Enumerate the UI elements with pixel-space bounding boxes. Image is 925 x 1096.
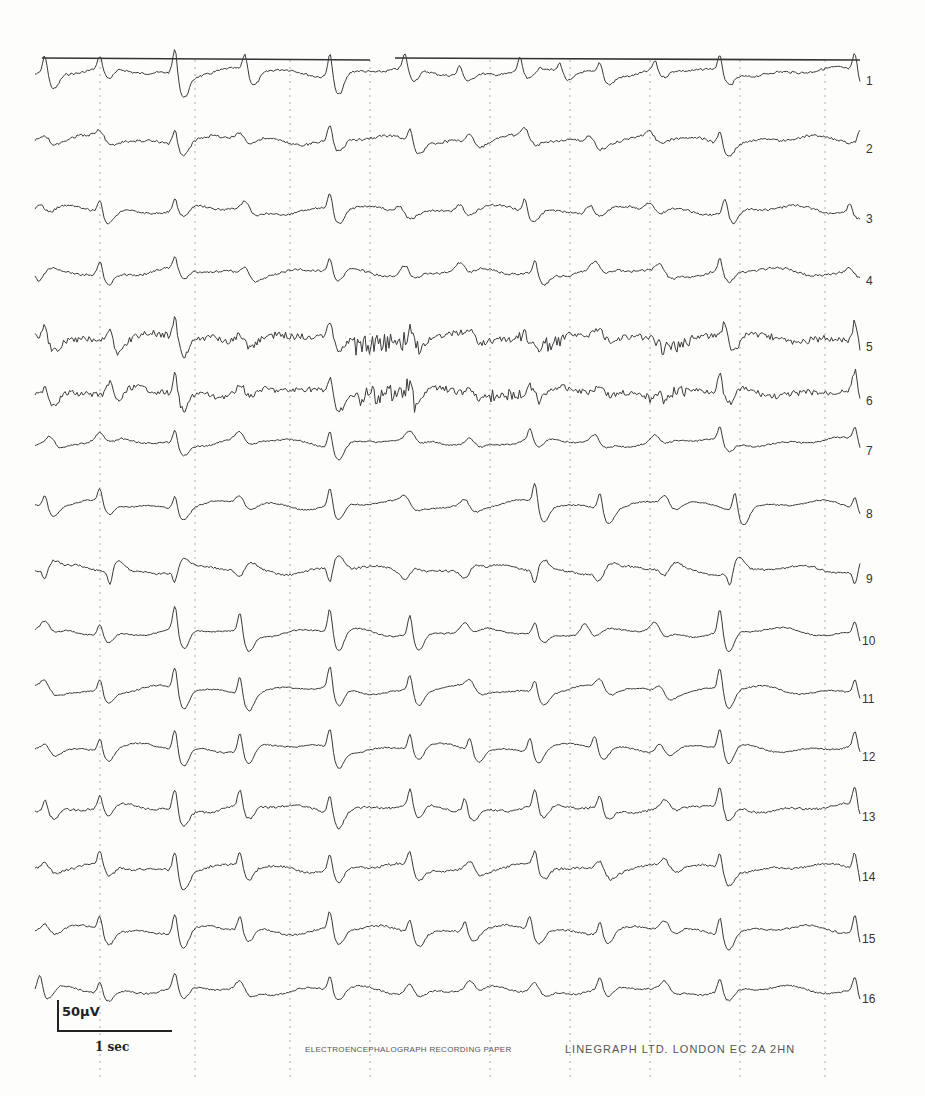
channel-label-1: 1 bbox=[866, 74, 873, 88]
channel-trace-9 bbox=[35, 556, 860, 585]
channel-trace-12 bbox=[35, 730, 860, 768]
channel-label-13: 13 bbox=[862, 810, 875, 824]
channel-trace-6 bbox=[35, 369, 860, 412]
channel-label-3: 3 bbox=[866, 212, 873, 226]
channel-trace-7 bbox=[35, 427, 860, 460]
channel-label-10: 10 bbox=[862, 634, 875, 648]
channel-label-4: 4 bbox=[866, 274, 873, 288]
channel-trace-4 bbox=[35, 257, 860, 286]
calibration-time-label: 1 sec bbox=[95, 1040, 129, 1054]
channel-trace-5 bbox=[35, 317, 860, 358]
channel-label-12: 12 bbox=[862, 750, 875, 764]
channel-label-8: 8 bbox=[866, 507, 873, 521]
channel-label-7: 7 bbox=[866, 444, 873, 458]
channel-label-15: 15 bbox=[862, 932, 875, 946]
channel-label-9: 9 bbox=[866, 572, 873, 586]
channel-trace-14 bbox=[35, 851, 860, 890]
channel-label-14: 14 bbox=[862, 870, 875, 884]
channel-label-2: 2 bbox=[866, 142, 873, 156]
manufacturer-label: LINEGRAPH LTD. LONDON EC 2A 2HN bbox=[565, 1043, 795, 1055]
channel-trace-16 bbox=[35, 973, 860, 1001]
channel-trace-10 bbox=[35, 606, 860, 651]
channel-trace-8 bbox=[35, 483, 860, 524]
eeg-traces bbox=[0, 0, 925, 1096]
channel-label-6: 6 bbox=[866, 394, 873, 408]
channel-traces bbox=[35, 50, 860, 1002]
channel-trace-15 bbox=[35, 912, 860, 950]
channel-label-16: 16 bbox=[862, 992, 875, 1006]
channel-trace-1 bbox=[35, 50, 860, 98]
channel-trace-13 bbox=[35, 788, 860, 829]
channel-label-11: 11 bbox=[862, 692, 874, 706]
channel-trace-2 bbox=[35, 126, 860, 156]
calibration-voltage-label: 50µV bbox=[62, 1004, 100, 1019]
eeg-recording-paper: 12345678910111213141516 50µV 1 sec ELECT… bbox=[0, 0, 925, 1096]
channel-trace-3 bbox=[35, 194, 860, 224]
timing-line bbox=[42, 58, 860, 60]
channel-label-5: 5 bbox=[866, 340, 873, 354]
paper-label: ELECTROENCEPHALOGRAPH RECORDING PAPER bbox=[305, 1045, 512, 1054]
channel-trace-11 bbox=[35, 667, 860, 711]
